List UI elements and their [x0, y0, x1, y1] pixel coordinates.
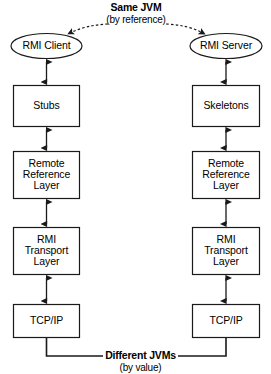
- node-client-tcp-ip: [14, 305, 80, 338]
- node-stubs: [14, 86, 80, 127]
- node-client-remote-reference-layer: [14, 152, 80, 199]
- node-rmi-server: [190, 34, 262, 59]
- dashed-arrow-to-client: [70, 24, 108, 33]
- bottom-connector-client: [47, 338, 104, 356]
- dashed-arrow-to-server: [166, 24, 203, 33]
- node-client-rmi-transport-layer: [14, 228, 80, 275]
- rmi-architecture-diagram: Same JVM (by reference) RMI Client RMI S…: [0, 0, 271, 374]
- node-server-remote-reference-layer: [193, 152, 260, 199]
- bottom-connector-server: [178, 338, 226, 356]
- node-rmi-client: [11, 34, 82, 59]
- node-server-rmi-transport-layer: [193, 228, 260, 275]
- diagram-canvas: [0, 0, 271, 374]
- node-skeletons: [193, 86, 260, 127]
- node-server-tcp-ip: [193, 305, 260, 338]
